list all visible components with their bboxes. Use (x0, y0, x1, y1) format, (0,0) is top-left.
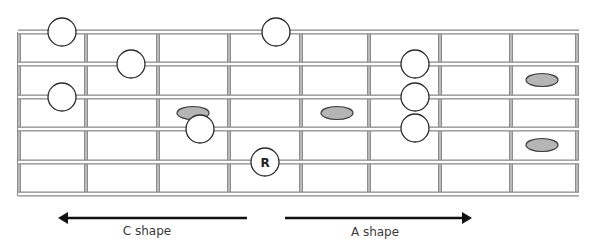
direction-arrows (58, 212, 472, 224)
fretboard-diagram: R C shape A shape (0, 0, 596, 251)
a-shape-label: A shape (351, 225, 399, 239)
arrowhead-icon (58, 212, 68, 224)
chord-note (401, 50, 429, 78)
c-shape-label: C shape (123, 224, 171, 238)
string-lines (18, 30, 579, 197)
chord-note (48, 18, 76, 46)
passing-note (526, 139, 558, 152)
fret-lines (17, 32, 579, 196)
chord-note (262, 18, 290, 46)
chord-note (401, 114, 429, 142)
passing-note (526, 74, 558, 87)
chord-note (401, 83, 429, 111)
chord-note (117, 50, 145, 78)
passing-note (321, 107, 353, 120)
chord-note (48, 83, 76, 111)
chord-note (186, 115, 214, 143)
arrowhead-icon (462, 212, 472, 224)
root-label: R (260, 156, 269, 170)
